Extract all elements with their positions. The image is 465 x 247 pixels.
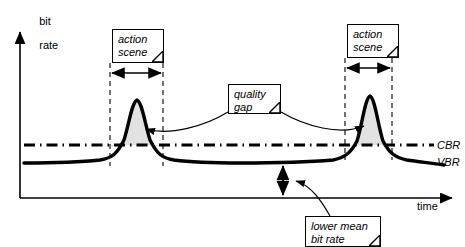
vbr-series-label: VBR	[437, 156, 460, 168]
callout-fold-corner-icon	[387, 46, 398, 57]
callout-fold-corner-icon	[369, 235, 380, 246]
y-axis-label-line2: rate	[39, 39, 58, 51]
y-axis-label: bit rate	[27, 3, 58, 63]
x-axis-label: time	[417, 200, 438, 212]
callout-action-scene-right-line1: action	[353, 28, 392, 41]
quality-gap-shaded-area-right	[333, 97, 407, 170]
callout-lower-mean-bit-rate: lower mean bit rate	[305, 216, 381, 247]
callout-action-scene-right: action scene	[347, 24, 399, 58]
quality-gap-leader-right	[281, 112, 364, 130]
callout-action-scene-left-line1: action	[118, 33, 157, 46]
callout-lower-mean-bit-rate-line2: bit rate	[311, 233, 374, 246]
callout-fold-corner-icon	[269, 102, 280, 113]
cbr-series-label: CBR	[437, 139, 460, 151]
callout-quality-gap-line1: quality	[234, 88, 274, 101]
y-axis-label-line1: bit	[39, 15, 51, 27]
bit-rate-vbr-cbr-diagram: bit rate time CBR VBR action scene actio…	[0, 0, 465, 247]
quality-gap-leader-left	[146, 112, 228, 131]
callout-quality-gap-line2: gap	[234, 101, 274, 114]
callout-lower-mean-bit-rate-line1: lower mean	[311, 220, 374, 233]
callout-action-scene-left: action scene	[112, 29, 164, 63]
callout-quality-gap: quality gap	[228, 84, 281, 114]
callout-fold-corner-icon	[152, 51, 163, 62]
